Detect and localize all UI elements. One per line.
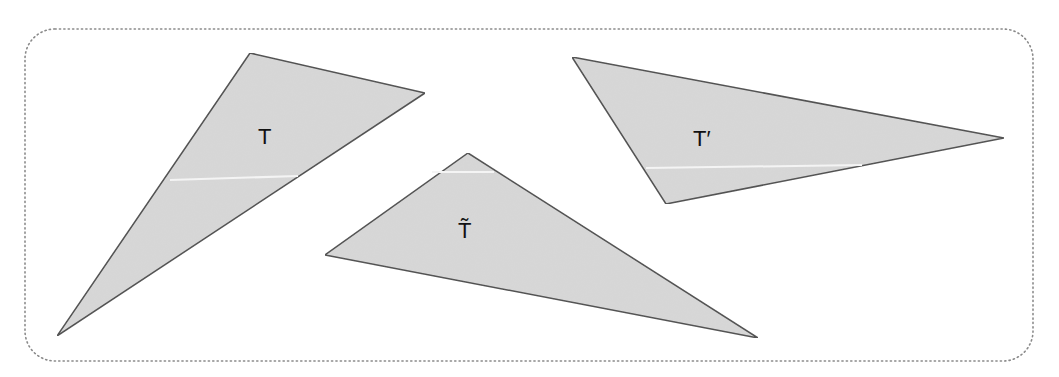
triangle-t-shape (57, 53, 425, 336)
triangle-t-prime: T′ (572, 57, 1004, 204)
triangle-t-prime-label: T′ (693, 126, 711, 151)
triangle-t-label: T (258, 124, 271, 149)
triangle-t-prime-shape (572, 57, 1004, 204)
triangle-t-tilde-label: T̃ (458, 218, 471, 243)
triangle-t: T (57, 53, 425, 336)
triangles-diagram: T T̃ T′ (0, 0, 1059, 377)
